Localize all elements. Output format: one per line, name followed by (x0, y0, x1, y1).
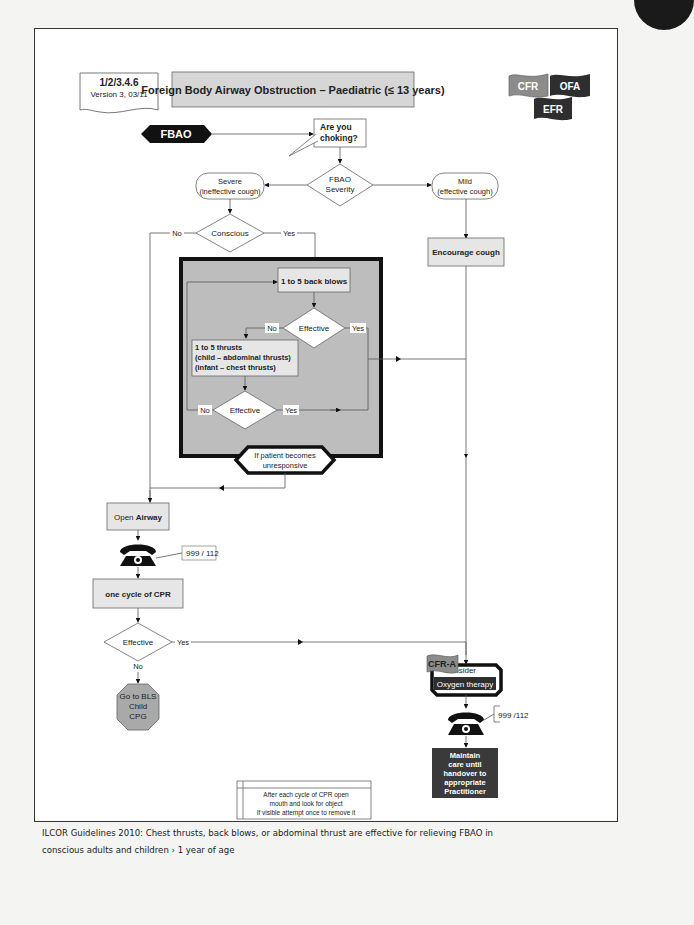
svg-text:No: No (200, 406, 210, 415)
page-title: Foreign Body Airway Obstruction – Paedia… (141, 84, 445, 96)
svg-text:1 to 5 back blows: 1 to 5 back blows (281, 277, 348, 286)
svg-text:999 /112: 999 /112 (498, 711, 529, 720)
svg-text:Severity: Severity (326, 185, 355, 194)
ilcor-footnote: ILCOR Guidelines 2010: Chest thrusts, ba… (42, 824, 546, 858)
svg-text:Child: Child (129, 702, 147, 711)
cpr-cycle-box: one cycle of CPR (93, 579, 183, 608)
svg-text:FBAO: FBAO (160, 128, 192, 140)
effective-decision-3: Effective (104, 623, 172, 661)
svg-text:No: No (133, 662, 143, 671)
svg-text:Effective: Effective (123, 638, 154, 647)
svg-text:CPG: CPG (129, 712, 146, 721)
svg-text:No: No (172, 229, 182, 238)
badge-cfr: CFR (509, 74, 548, 97)
phone-icon (120, 545, 156, 567)
svg-text:Go to BLS: Go to BLS (120, 692, 157, 701)
svg-text:Practitioner: Practitioner (444, 787, 486, 796)
svg-text:1 to 5 thrusts: 1 to 5 thrusts (195, 343, 242, 352)
badge-efr: EFR (534, 97, 572, 120)
svg-text:Yes: Yes (177, 638, 189, 647)
conscious-decision: Conscious (196, 214, 264, 252)
go-to-bls-stop: Go to BLS Child CPG (117, 684, 159, 730)
svg-text:Mild: Mild (458, 177, 472, 186)
back-blows-box: 1 to 5 back blows (278, 268, 350, 292)
svg-text:999 / 112: 999 / 112 (186, 549, 219, 558)
svg-text:No: No (267, 324, 277, 333)
severity-decision: FBAO Severity (307, 164, 373, 206)
badge-ofa: OFA (550, 74, 590, 97)
svg-text:mouth and look for object: mouth and look for object (270, 800, 343, 808)
mild-state: Mild (effective cough) (432, 173, 498, 199)
svg-text:If patient becomes: If patient becomes (254, 451, 316, 460)
footnote-line-1: ILCOR Guidelines 2010: Chest thrusts, ba… (42, 824, 546, 841)
svg-text:Encourage cough: Encourage cough (432, 248, 500, 257)
svg-text:After each cycle of CPR open: After each cycle of CPR open (263, 791, 349, 799)
title-box: Foreign Body Airway Obstruction – Paedia… (141, 72, 445, 107)
thrusts-box: 1 to 5 thrusts (child – abdominal thrust… (192, 340, 298, 376)
svg-text:care until: care until (448, 760, 481, 769)
svg-text:handover to: handover to (444, 769, 487, 778)
svg-text:Yes: Yes (285, 406, 297, 415)
svg-text:Yes: Yes (352, 324, 364, 333)
svg-text:Yes: Yes (283, 229, 295, 238)
open-airway-box: Open Airway (107, 503, 169, 530)
svg-text:EFR: EFR (543, 104, 564, 115)
svg-text:FBAO: FBAO (329, 175, 351, 184)
svg-text:unresponsive: unresponsive (263, 461, 308, 470)
emergency-number-1: 999 / 112 (182, 546, 219, 560)
svg-text:Oxygen therapy: Oxygen therapy (437, 680, 493, 689)
svg-text:If visible attempt once to rem: If visible attempt once to remove it (257, 809, 356, 817)
svg-text:(child – abdominal thrusts): (child – abdominal thrusts) (195, 353, 291, 362)
svg-text:Effective: Effective (299, 324, 330, 333)
phone-icon-2 (448, 713, 484, 736)
document-code: 1/2/3.4.6 (100, 77, 139, 88)
svg-text:Conscious: Conscious (211, 229, 248, 238)
unresponsive-trigger: If patient becomes unresponsive (236, 447, 334, 473)
fbao-start: FBAO (141, 125, 212, 143)
maintain-care-box: Maintain care until handover to appropri… (432, 748, 498, 798)
choking-question: Are you choking? (289, 119, 366, 156)
svg-text:Maintain: Maintain (450, 751, 481, 760)
svg-text:Severe: Severe (218, 177, 242, 186)
version-text: Version 3, 03/11 (90, 90, 148, 99)
svg-text:Effective: Effective (230, 406, 261, 415)
emergency-number-2: 999 /112 (494, 706, 529, 722)
svg-text:CFR: CFR (518, 81, 539, 92)
severe-state: Severe (ineffective cough) (196, 173, 264, 199)
svg-text:OFA: OFA (560, 81, 581, 92)
badge-cfr-a: CFR-A (427, 655, 458, 673)
svg-text:Open Airway: Open Airway (114, 513, 163, 522)
cpr-note-box: After each cycle of CPR open mouth and l… (237, 781, 371, 819)
encourage-cough-box: Encourage cough (428, 238, 504, 266)
svg-text:CFR-A: CFR-A (428, 659, 456, 669)
svg-text:choking?: choking? (320, 133, 358, 143)
svg-text:(effective cough): (effective cough) (437, 187, 493, 196)
svg-text:appropriate: appropriate (444, 778, 485, 787)
svg-text:(ineffective cough): (ineffective cough) (199, 187, 261, 196)
svg-text:Are you: Are you (320, 122, 352, 132)
svg-text:one cycle of CPR: one cycle of CPR (105, 590, 171, 599)
footnote-line-2: conscious adults and children › 1 year o… (42, 841, 546, 858)
svg-text:(infant – chest thrusts): (infant – chest thrusts) (195, 363, 276, 372)
